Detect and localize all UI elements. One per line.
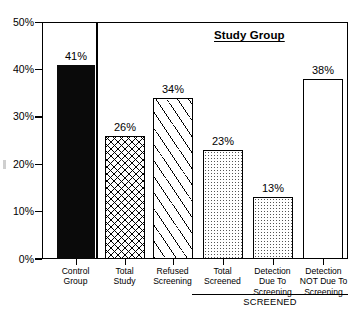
bar-detection-due-to-screening: 13% <box>253 197 293 259</box>
x-axis-label-detection-not-due-to-screening: Detection NOT Due To Screening <box>291 266 356 297</box>
bar-detection-not-due-to-screening: 38% <box>303 79 343 259</box>
y-tick-label-20: 20% <box>0 159 34 170</box>
screened-bracket-label: SCREENED <box>192 297 348 308</box>
bar-value-label: 13% <box>262 183 284 194</box>
x-tick-mark-1 <box>76 259 77 265</box>
x-tick-mark-5 <box>273 259 274 265</box>
bar-total-study: 26% <box>105 136 145 259</box>
y-tick-label-30: 30% <box>0 111 34 122</box>
group-divider-line <box>96 22 98 259</box>
y-tick-label-40: 40% <box>0 64 34 75</box>
bar-value-label: 34% <box>162 84 184 95</box>
bar-value-label: 23% <box>212 136 234 147</box>
bar-refused-screening: 34% <box>153 98 193 259</box>
x-tick-mark-3 <box>173 259 174 265</box>
bar-value-label: 38% <box>312 65 334 76</box>
study-group-title: Study Group <box>214 29 285 41</box>
y-tick-mark-0 <box>35 258 42 259</box>
y-tick-label-10: 10% <box>0 206 34 217</box>
bar-total-screened: 23% <box>203 150 243 259</box>
bar-control-group: 41% <box>57 65 95 259</box>
bar-value-label: 41% <box>65 51 87 62</box>
y-tick-label-50: 50% <box>0 17 34 28</box>
bar-chart-figure: 0% 10% 20% 30% 40% 50% 41% 26% 34% 23% 1… <box>0 0 361 311</box>
x-tick-mark-6 <box>323 259 324 265</box>
y-tick-mark-30 <box>35 116 42 117</box>
y-tick-mark-20 <box>35 164 42 165</box>
x-tick-mark-4 <box>223 259 224 265</box>
y-tick-mark-40 <box>35 69 42 70</box>
y-tick-mark-10 <box>35 211 42 212</box>
bar-value-label: 26% <box>114 122 136 133</box>
x-tick-mark-2 <box>125 259 126 265</box>
y-tick-mark-50 <box>35 22 42 23</box>
screened-bracket-line <box>192 294 348 295</box>
y-tick-label-0: 0% <box>0 254 34 265</box>
